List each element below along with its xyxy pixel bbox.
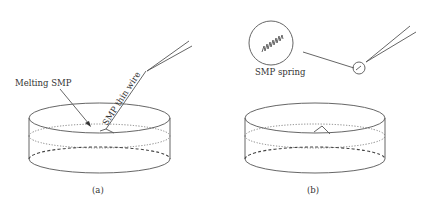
magnifier-connector bbox=[303, 52, 354, 68]
tweezers-b bbox=[366, 26, 416, 62]
petri-dish-a bbox=[29, 103, 170, 173]
petri-dish-b bbox=[245, 103, 385, 173]
tweezer-arm-lower bbox=[147, 46, 192, 71]
dish-bottom-front bbox=[29, 159, 170, 173]
tweezers-a bbox=[147, 41, 192, 71]
dish-bottom-back bbox=[29, 147, 170, 159]
tweezer-b-arm-lower bbox=[366, 32, 416, 62]
panel-b: SMP spring (b) bbox=[245, 21, 416, 195]
liquid-surface-back bbox=[29, 124, 170, 136]
dish-b-top-rim bbox=[245, 103, 385, 133]
liquid-surface-front bbox=[29, 136, 170, 148]
wire-tip-left bbox=[100, 129, 106, 131]
tweezer-arm-upper bbox=[147, 41, 189, 71]
panel-a: Melting SMP SMP thin wire (a) bbox=[15, 41, 192, 195]
dish-b-bottom-back bbox=[245, 147, 385, 159]
panel-b-caption: (b) bbox=[307, 185, 319, 195]
tweezer-b-arm-upper bbox=[366, 26, 410, 62]
dish-b-bottom-front bbox=[245, 159, 385, 173]
panel-a-caption: (a) bbox=[92, 185, 104, 195]
smp-spring-label: SMP spring bbox=[255, 67, 306, 77]
smp-spring-icon bbox=[262, 35, 283, 52]
smp-thin-wire-label: SMP thin wire bbox=[100, 70, 142, 127]
liquid-b-surface-back bbox=[245, 124, 385, 136]
figure-canvas: Melting SMP SMP thin wire (a) SMP spring bbox=[0, 0, 429, 209]
melting-smp-label: Melting SMP bbox=[15, 78, 72, 88]
liquid-b-surface-front bbox=[245, 136, 385, 148]
magnifier-circle bbox=[249, 21, 293, 65]
small-spring-mark bbox=[356, 66, 361, 70]
dish-top-rim bbox=[29, 103, 170, 133]
melting-arrow-line bbox=[60, 89, 89, 124]
